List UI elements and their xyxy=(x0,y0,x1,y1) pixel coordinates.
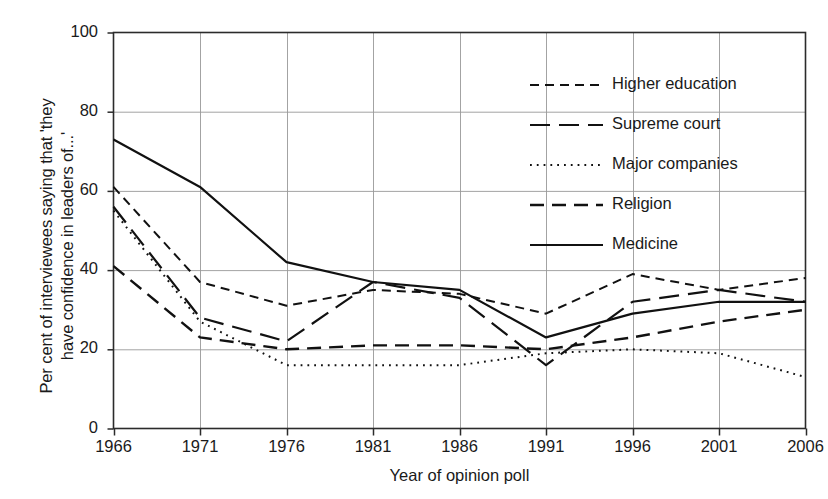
x-tick-label: 1966 xyxy=(79,437,149,456)
x-tick-label: 2001 xyxy=(684,437,754,456)
series-line-higher-education xyxy=(114,187,806,314)
x-tick-label: 1986 xyxy=(425,437,495,456)
y-tick-label: 20 xyxy=(52,338,98,357)
legend-sample-lines xyxy=(530,85,603,245)
x-tick-label: 2006 xyxy=(771,437,828,456)
x-tick-label: 1991 xyxy=(511,437,581,456)
data-series-layer xyxy=(114,139,806,377)
y-tick-label: 80 xyxy=(52,101,98,120)
x-tick-label: 1971 xyxy=(165,437,235,456)
legend-item-label: Higher education xyxy=(612,74,737,93)
x-tick-label: 1996 xyxy=(598,437,668,456)
x-tick-label: 1981 xyxy=(338,437,408,456)
y-tick-label: 100 xyxy=(52,22,98,41)
legend-item-label: Religion xyxy=(612,194,672,213)
y-tick-label: 40 xyxy=(52,259,98,278)
y-tick-label: 60 xyxy=(52,180,98,199)
axis-ticks xyxy=(108,33,807,436)
series-line-religion xyxy=(114,266,806,349)
legend-item-label: Medicine xyxy=(612,234,678,253)
legend-item-label: Major companies xyxy=(612,154,738,173)
legend-item-label: Supreme court xyxy=(612,114,720,133)
x-tick-label: 1976 xyxy=(252,437,322,456)
y-tick-label: 0 xyxy=(52,418,98,437)
